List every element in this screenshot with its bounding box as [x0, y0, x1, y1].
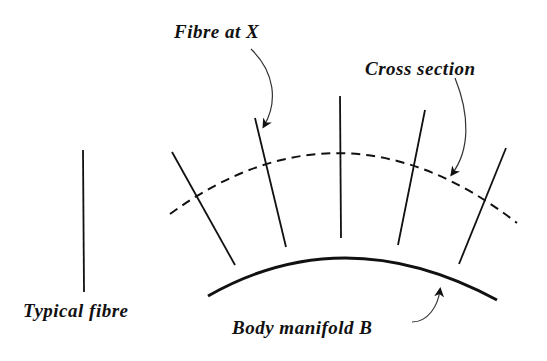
body-manifold-arrow	[412, 290, 440, 322]
body-manifold-label: Body manifold B	[232, 317, 373, 339]
fibre-at-x-label: Fibre at X	[174, 21, 259, 43]
cross-section-arrow	[452, 78, 466, 174]
fibre-line-1	[172, 152, 235, 265]
fibre-line-5	[459, 148, 506, 264]
body-manifold-curve	[208, 258, 497, 300]
typical-fibre-line	[83, 150, 84, 292]
typical-fibre-label: Typical fibre	[23, 300, 129, 322]
fibre-line-3	[340, 96, 341, 238]
cross-section-curve	[170, 153, 517, 223]
fibre-line-4	[398, 110, 425, 245]
fibre-at-x-line	[255, 118, 286, 247]
cross-section-label: Cross section	[365, 58, 476, 80]
fibre-at-x-arrow	[251, 49, 272, 126]
